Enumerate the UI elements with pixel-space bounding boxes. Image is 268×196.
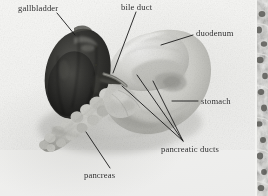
label-duodenum: duodenum xyxy=(196,28,233,38)
plate-gutter xyxy=(255,0,257,196)
label-stomach: stomach xyxy=(201,96,231,106)
label-pancreatic-ducts: pancreatic ducts xyxy=(161,144,219,154)
adjacent-histology-plate xyxy=(255,0,268,196)
figure-page: gallbladder bile duct duodenum stomach p… xyxy=(0,0,268,196)
label-pancreas: pancreas xyxy=(84,170,115,180)
label-gallbladder: gallbladder xyxy=(18,3,58,13)
label-bile-duct: bile duct xyxy=(121,2,152,12)
